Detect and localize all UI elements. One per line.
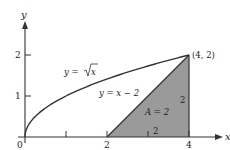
line-label: y = x − 2	[98, 88, 139, 98]
area-label: A = 2	[144, 107, 169, 117]
sqrt-label-prefix: y =	[63, 67, 79, 77]
y-axis-label: y	[20, 9, 27, 20]
x-tick-label-4: 4	[186, 140, 192, 150]
horizontal-side-length-label: 2	[153, 126, 158, 136]
x-axis-arrow-icon	[215, 134, 223, 140]
y-tick-label-2: 2	[15, 50, 21, 60]
plot-canvas: x y 0 2 4 1 2 (4, 2) y = x y = x − 2 A =…	[0, 0, 230, 150]
y-tick-label-1: 1	[15, 91, 21, 101]
sqrt-curve-label: y =	[63, 67, 79, 77]
point-label-4-2: (4, 2)	[192, 50, 215, 60]
sqrt-label-arg: x	[91, 67, 96, 77]
vertical-side-length-label: 2	[180, 95, 185, 105]
x-axis-label: x	[225, 131, 230, 142]
origin-label: 0	[17, 140, 23, 150]
area-between-curves-figure: x y 0 2 4 1 2 (4, 2) y = x y = x − 2 A =…	[0, 0, 230, 150]
x-tick-label-2: 2	[104, 140, 110, 150]
y-axis-arrow-icon	[22, 21, 28, 29]
